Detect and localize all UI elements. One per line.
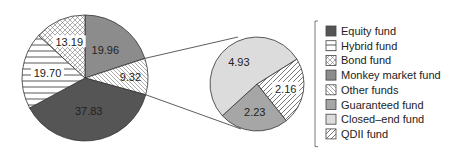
legend-item-hybrid-fund: Hybrid fund <box>326 40 397 52</box>
legend-swatch <box>326 100 336 110</box>
legend-swatch <box>326 55 336 65</box>
legend-swatch <box>326 26 336 36</box>
main-label-monkey-market-fund: 19.96 <box>92 44 120 56</box>
legend-item-equity-fund: Equity fund <box>326 25 396 37</box>
main-label-other-funds: 9.32 <box>120 71 141 83</box>
legend-label: Monkey market fund <box>341 69 441 81</box>
legend-label: Closed–end fund <box>341 113 424 125</box>
legend-swatch <box>326 129 336 139</box>
legend-label: QDII fund <box>341 128 388 140</box>
main-label-bond-fund: 13.19 <box>56 36 84 48</box>
sub-label-guaranteed-fund: 2.23 <box>244 106 265 118</box>
legend-label: Equity fund <box>341 25 396 37</box>
sub-label-closed-end-fund: 4.93 <box>228 56 249 68</box>
legend-item-other-funds: Other funds <box>326 84 399 96</box>
sub-label-qdii-fund: 2.16 <box>275 83 296 95</box>
main-label-equity-fund: 37.83 <box>75 105 103 117</box>
pie-of-pie-chart: 19.969.3237.8319.7013.19 2.162.234.93 Eq… <box>0 0 450 160</box>
legend-item-guaranteed-fund: Guaranteed fund <box>326 99 424 111</box>
legend-label: Bond fund <box>341 54 391 66</box>
legend-label: Other funds <box>341 84 399 96</box>
legend-item-closed-end-fund: Closed–end fund <box>326 113 424 125</box>
legend-item-qdii-fund: QDII fund <box>326 128 388 140</box>
legend-label: Guaranteed fund <box>341 99 424 111</box>
legend-item-monkey-market-fund: Monkey market fund <box>326 69 441 81</box>
main-label-hybrid-fund: 19.70 <box>34 67 62 79</box>
legend: Equity fundHybrid fundBond fundMonkey ma… <box>315 21 441 147</box>
legend-swatch <box>326 70 336 80</box>
legend-swatch <box>326 85 336 95</box>
legend-label: Hybrid fund <box>341 40 397 52</box>
legend-swatch <box>326 114 336 124</box>
legend-bracket <box>315 21 318 147</box>
legend-swatch <box>326 41 336 51</box>
legend-item-bond-fund: Bond fund <box>326 54 391 66</box>
